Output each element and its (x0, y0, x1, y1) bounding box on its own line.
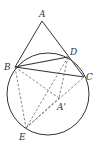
circumcircle (7, 53, 89, 135)
segment-BC (15, 67, 84, 77)
segment-BA' (15, 67, 59, 98)
segment-BE (15, 67, 26, 128)
segment-AB (15, 21, 42, 67)
segment-EC (26, 77, 84, 128)
segment-DE (26, 57, 68, 128)
geometry-diagram: A B D C A' E (0, 0, 106, 153)
segment-AC (42, 21, 84, 77)
label-A-prime: A' (56, 102, 66, 112)
label-C: C (86, 72, 93, 82)
label-A: A (38, 9, 46, 19)
label-D: D (69, 47, 77, 57)
label-B: B (3, 62, 11, 72)
segment-DA' (59, 57, 68, 98)
label-E: E (18, 132, 26, 142)
